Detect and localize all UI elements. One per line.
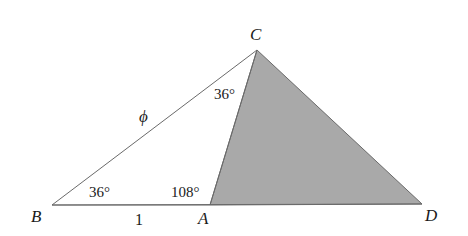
angle-label-b: 36° (89, 184, 110, 200)
side-label-ba: 1 (135, 211, 143, 228)
vertex-label-a: A (197, 209, 209, 228)
vertex-label-c: C (250, 25, 262, 44)
diagram-canvas: C B A D 36° 108° 36° ϕ 1 (0, 0, 468, 236)
baseline-bd (52, 204, 422, 205)
side-label-bc: ϕ (139, 107, 148, 126)
shaded-triangle-acd (210, 50, 422, 205)
vertex-label-d: D (424, 206, 438, 225)
diagram-svg: C B A D 36° 108° 36° ϕ 1 (0, 0, 468, 236)
vertex-label-b: B (31, 207, 42, 226)
angle-label-a: 108° (171, 184, 200, 200)
angle-label-c: 36° (214, 86, 235, 102)
